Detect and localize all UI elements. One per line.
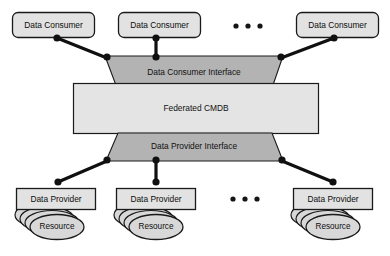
provider-connectors — [58, 161, 333, 182]
connector-provider-3 — [282, 161, 333, 182]
provider-group-2: Resource Data Provider — [114, 189, 196, 240]
joint-dot-consumer-1-iface — [103, 53, 110, 60]
provider-node-2-label: Data Provider — [130, 194, 181, 204]
joint-dot-provider-2-iface — [152, 156, 159, 163]
joint-dot-consumer-3-iface — [277, 53, 284, 60]
joint-dot-consumer-2-iface — [152, 53, 159, 60]
provider-group-1: Resource Data Provider — [15, 189, 96, 240]
connector-consumer-1 — [57, 38, 107, 58]
joint-dot-consumer-1-top — [53, 34, 60, 41]
provider-ellipsis-icon — [230, 196, 259, 201]
federated-cmdb-diagram: Data Consumer Interface Federated CMDB D… — [0, 0, 390, 256]
consumer-node-3-label: Data Consumer — [308, 20, 367, 30]
joint-dot-provider-2-node — [152, 178, 159, 185]
consumer-node-2[interactable]: Data Consumer — [119, 13, 201, 38]
resource-stack-1-label: Resource — [39, 222, 74, 231]
provider-group-3: Resource Data Provider — [291, 189, 373, 240]
data-consumer-interface-label: Data Consumer Interface — [147, 67, 241, 77]
joint-dot-consumer-3-top — [330, 34, 337, 41]
joint-dot-provider-1-node — [54, 178, 61, 185]
federated-cmdb-label: Federated CMDB — [163, 103, 229, 113]
consumer-connectors — [57, 38, 334, 58]
joint-dot-consumer-2-top — [152, 34, 159, 41]
consumer-node-1[interactable]: Data Consumer — [13, 13, 95, 38]
provider-node-1-label: Data Provider — [30, 194, 81, 204]
provider-node-3-label: Data Provider — [307, 194, 358, 204]
connector-consumer-3 — [281, 38, 334, 58]
data-provider-interface-label: Data Provider Interface — [151, 141, 237, 151]
joint-dot-provider-3-iface — [278, 156, 285, 163]
consumer-ellipsis-icon — [233, 23, 262, 28]
resource-stack-3-label: Resource — [315, 222, 350, 231]
consumer-node-3[interactable]: Data Consumer — [297, 13, 379, 38]
joint-dot-provider-3-node — [329, 178, 336, 185]
joint-dot-provider-1-iface — [103, 156, 110, 163]
consumer-node-1-label: Data Consumer — [24, 20, 83, 30]
diagram-canvas: Data Consumer Interface Federated CMDB D… — [0, 0, 390, 256]
connector-provider-1 — [58, 161, 107, 182]
consumer-node-2-label: Data Consumer — [130, 20, 189, 30]
resource-stack-2-label: Resource — [138, 222, 173, 231]
